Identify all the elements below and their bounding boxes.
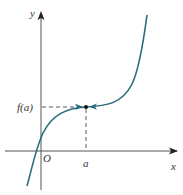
left-approach-arrow-icon xyxy=(75,104,83,110)
y-axis-label: y xyxy=(29,7,35,19)
origin-label: O xyxy=(43,152,51,164)
point-a-fa xyxy=(84,105,88,109)
point-x-label: a xyxy=(83,157,89,169)
x-axis-label: x xyxy=(170,160,176,172)
function-graph: y x O a f(a) xyxy=(0,0,183,195)
point-y-label: f(a) xyxy=(17,101,33,114)
